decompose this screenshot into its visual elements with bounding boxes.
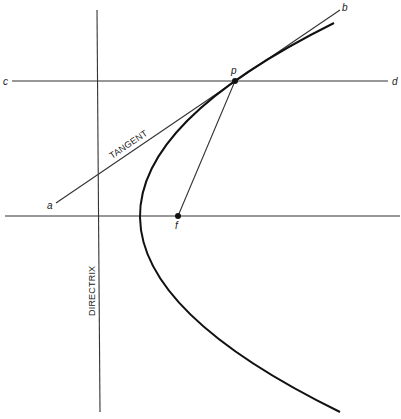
focus-f-dot (175, 213, 181, 219)
directrix-line (97, 10, 100, 412)
label-c: c (3, 76, 8, 87)
label-f: f (175, 220, 179, 231)
label-b: b (342, 2, 348, 13)
point-p-dot (232, 78, 238, 84)
label-p: p (230, 65, 237, 76)
tangent-line-ab (56, 10, 340, 203)
label-d: d (392, 76, 398, 87)
parabola-diagram: a b c d p f TANGENT DIRECTRIX (0, 0, 401, 419)
directrix-label: DIRECTRIX (87, 266, 97, 316)
label-a: a (47, 200, 53, 211)
